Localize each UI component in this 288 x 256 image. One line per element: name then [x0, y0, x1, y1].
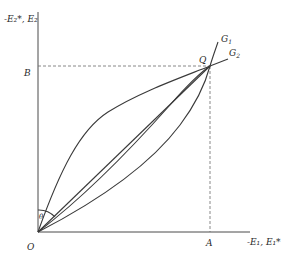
curve-g1: [38, 42, 218, 232]
label-a: A: [205, 238, 213, 248]
label-b: B: [23, 68, 31, 78]
x-axis-label: -E₁, E₁*: [247, 237, 281, 247]
label-g1: G1: [221, 34, 232, 45]
y-axis-label: -E₂*, E₂: [4, 14, 38, 24]
line-g2-extension: [210, 59, 228, 66]
diagonal-line: [38, 66, 210, 232]
label-g2: G2: [229, 48, 240, 59]
label-o: O: [27, 242, 35, 252]
diagram: -E₂*, E₂ -E₁, E₁* B A O Q G1 G2 θ: [0, 0, 288, 256]
label-q: Q: [199, 55, 207, 65]
